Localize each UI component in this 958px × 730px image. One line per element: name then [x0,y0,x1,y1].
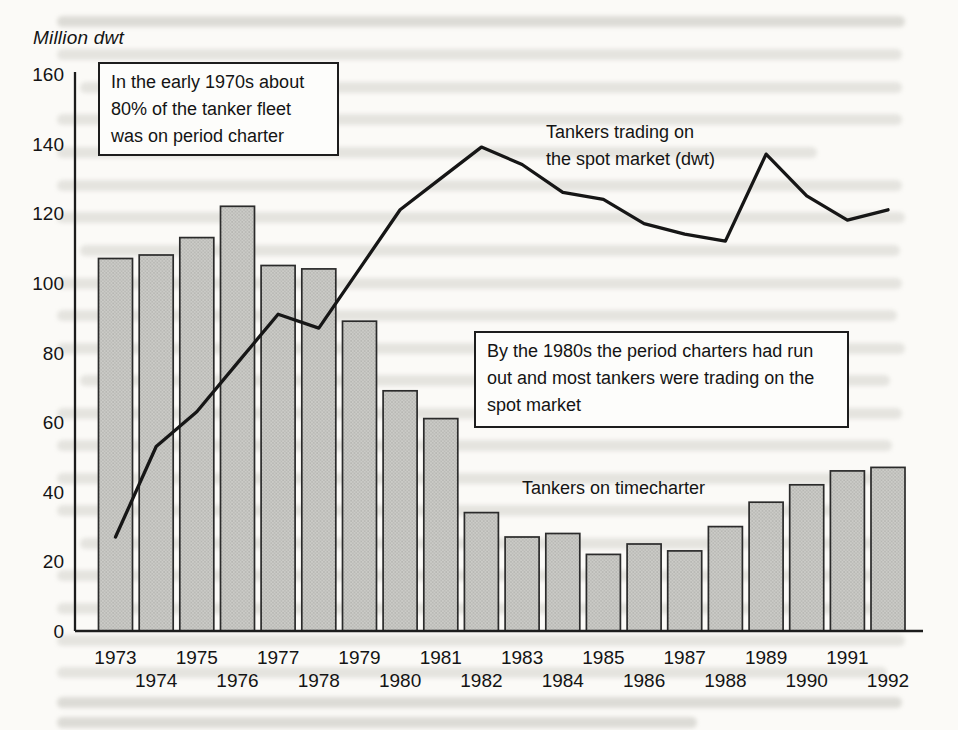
timecharter-bar-label: Tankers on timecharter [522,475,782,502]
x-tick-label-1987: 1987 [664,647,706,668]
spot-market-line-label-line2: the spot market (dwt) [546,146,766,173]
y-tick-label-60: 60 [43,412,64,433]
x-tick-label-1985: 1985 [582,647,624,668]
annotation-box-1980s: By the 1980s the period charters had run… [474,331,849,428]
bar-1989 [749,502,783,631]
y-axis-title: Million dwt [33,27,124,49]
x-tick-label-1981: 1981 [420,647,462,668]
x-tick-label-1977: 1977 [257,647,299,668]
x-tick-label-1975: 1975 [176,647,218,668]
annotation-box-early-1970s: In the early 1970s about 80% of the tank… [98,62,339,156]
scanned-book-page: Million dwt 0204060801001201401601973197… [0,0,958,730]
spot-market-line-label: Tankers trading on the spot market (dwt) [546,119,766,173]
bar-1982 [464,513,498,631]
y-tick-label-40: 40 [43,482,64,503]
x-tick-label-1990: 1990 [786,670,828,691]
bar-1990 [790,485,824,631]
bar-1983 [505,537,539,631]
x-tick-label-1979: 1979 [338,647,380,668]
y-tick-label-0: 0 [53,621,64,642]
x-tick-label-1992: 1992 [867,670,909,691]
bar-1985 [586,554,620,631]
y-tick-label-80: 80 [43,343,64,364]
spot-market-line-label-line1: Tankers trading on [546,119,766,146]
bar-1980 [383,391,417,631]
x-tick-label-1978: 1978 [298,670,340,691]
x-tick-label-1989: 1989 [745,647,787,668]
x-tick-label-1986: 1986 [623,670,665,691]
y-tick-label-20: 20 [43,551,64,572]
bar-1975 [180,238,214,631]
bar-1981 [424,419,458,631]
y-tick-label-100: 100 [32,273,64,294]
x-tick-label-1980: 1980 [379,670,421,691]
x-tick-label-1976: 1976 [216,670,258,691]
x-tick-label-1984: 1984 [542,670,585,691]
bar-1988 [708,527,742,631]
y-tick-label-160: 160 [32,64,64,85]
bar-1977 [261,266,295,632]
annotation-text-early-1970s: In the early 1970s about 80% of the tank… [111,72,304,146]
x-tick-label-1983: 1983 [501,647,543,668]
bar-1974 [139,255,173,631]
y-tick-label-120: 120 [32,203,64,224]
bar-1991 [830,471,864,631]
bar-1979 [343,321,377,631]
bar-1973 [99,259,133,632]
x-tick-label-1991: 1991 [826,647,868,668]
x-tick-label-1974: 1974 [135,670,178,691]
x-tick-label-1988: 1988 [704,670,746,691]
y-tick-label-140: 140 [32,134,64,155]
bar-1987 [668,551,702,631]
bar-1984 [546,534,580,632]
x-tick-label-1982: 1982 [460,670,502,691]
bar-1986 [627,544,661,631]
annotation-text-1980s: By the 1980s the period charters had run… [487,341,814,415]
bar-1992 [871,467,905,631]
x-tick-label-1973: 1973 [94,647,136,668]
bar-1976 [221,206,255,631]
